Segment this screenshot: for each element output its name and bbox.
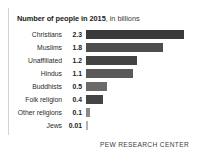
- category-label: Buddhists: [0, 83, 62, 91]
- pew-bar-chart: Number of people in 2015, in billions Ch…: [0, 0, 201, 157]
- bar-row: Other religions0.1: [0, 106, 201, 119]
- bar-row: Folk religion0.4: [0, 93, 201, 106]
- category-label: Christians: [0, 31, 62, 39]
- value-label: 1.2: [62, 57, 86, 65]
- bar-row: Christians2.3: [0, 28, 201, 41]
- bar-track: [86, 28, 201, 41]
- category-label: Folk religion: [0, 96, 62, 104]
- bar-fill: [86, 108, 90, 117]
- bar-row: Muslims1.8: [0, 41, 201, 54]
- bar-fill: [86, 82, 107, 91]
- bar-track: [86, 119, 201, 132]
- source-attribution: PEW RESEARCH CENTER: [100, 141, 189, 148]
- value-label: 1.8: [62, 44, 86, 52]
- bar-row: Unaffiliated1.2: [0, 54, 201, 67]
- bar-track: [86, 54, 201, 67]
- bar-fill: [86, 95, 103, 104]
- bar-track: [86, 80, 201, 93]
- bar-track: [86, 93, 201, 106]
- bar-row: Buddhists0.5: [0, 80, 201, 93]
- chart-title-bold: Number of people in 2015: [17, 14, 106, 23]
- chart-title: Number of people in 2015, in billions: [17, 14, 140, 23]
- category-label: Muslims: [0, 44, 62, 52]
- category-label: Other religions: [0, 109, 62, 117]
- bar-fill: [86, 56, 137, 65]
- value-label: 0.4: [62, 96, 86, 104]
- value-label: 0.1: [62, 109, 86, 117]
- bar-row: Jews0.01: [0, 119, 201, 132]
- bar-track: [86, 41, 201, 54]
- value-label: 1.1: [62, 70, 86, 78]
- value-label: 2.3: [62, 31, 86, 39]
- category-label: Jews: [0, 122, 62, 130]
- bar-track: [86, 106, 201, 119]
- bar-row: Hindus1.1: [0, 67, 201, 80]
- category-label: Unaffiliated: [0, 57, 62, 65]
- value-label: 0.01: [62, 122, 86, 130]
- bar-fill: [86, 69, 133, 78]
- bar-fill: [86, 30, 184, 39]
- bar-fill: [86, 43, 163, 52]
- bar-track: [86, 67, 201, 80]
- bar-chart-plot-area: Christians2.3Muslims1.8Unaffiliated1.2Hi…: [0, 28, 201, 132]
- chart-title-subtitle: , in billions: [106, 14, 140, 23]
- category-label: Hindus: [0, 70, 62, 78]
- bar-fill: [86, 121, 88, 130]
- value-label: 0.5: [62, 83, 86, 91]
